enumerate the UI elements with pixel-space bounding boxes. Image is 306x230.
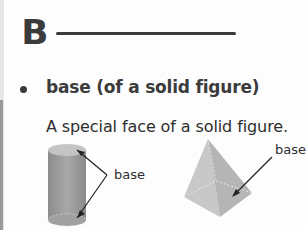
section-letter: B <box>21 12 48 52</box>
glossary-term: base (of a solid figure) <box>46 77 259 97</box>
cylinder-base-label: base <box>114 167 145 182</box>
glossary-definition: A special face of a solid figure. <box>46 117 288 136</box>
pyramid-base-label: base <box>275 142 306 157</box>
section-rule <box>56 32 236 35</box>
pyramid-illustration <box>180 135 280 230</box>
cylinder-illustration <box>40 140 150 230</box>
page-edge-shadow <box>0 100 3 230</box>
bullet-icon <box>20 86 27 93</box>
